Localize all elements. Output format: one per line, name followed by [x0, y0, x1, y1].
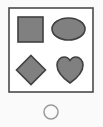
ellipse-icon [52, 18, 85, 40]
figure-canvas [0, 0, 103, 127]
shapes-figure [0, 0, 103, 127]
square-icon [18, 17, 43, 42]
